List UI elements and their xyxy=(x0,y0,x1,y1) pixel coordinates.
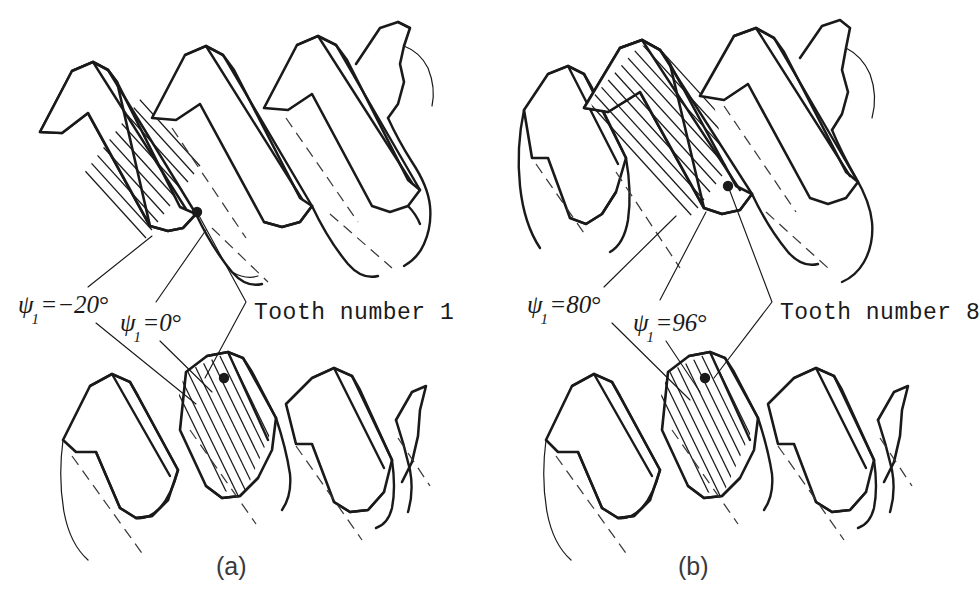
angle-value: −20 xyxy=(57,291,99,318)
equals-sign: = xyxy=(143,309,159,336)
panel-caption-a: (a) xyxy=(216,552,247,581)
panel-a-lower-gear xyxy=(61,344,430,560)
psi-subscript: 1 xyxy=(541,311,549,327)
angle-value: 80 xyxy=(566,291,591,318)
equals-sign: = xyxy=(550,291,566,318)
panel-b-upper-gear xyxy=(519,12,875,282)
tooth-number-label-a: Tooth number 1 xyxy=(254,300,454,326)
angle-value: 96 xyxy=(672,309,697,336)
contact-point-dot-b-lower xyxy=(700,373,710,383)
equals-sign: = xyxy=(41,291,57,318)
panel-b-lower-gear xyxy=(544,344,912,560)
angle-label-a-right: ψ1=0° xyxy=(120,310,182,340)
angle-label-a-left: ψ1=−20° xyxy=(18,292,109,322)
degree-sign: ° xyxy=(591,291,601,318)
angle-label-b-right: ψ1=96° xyxy=(633,310,707,340)
panel-a-upper-gear xyxy=(28,22,433,285)
degree-sign: ° xyxy=(99,291,109,318)
degree-sign: ° xyxy=(697,309,707,336)
angle-value: 0 xyxy=(159,309,172,336)
panel-caption-b: (b) xyxy=(678,552,709,581)
equals-sign: = xyxy=(656,309,672,336)
tooth-number-label-b: Tooth number 8 xyxy=(780,300,980,326)
contact-point-dot-a-lower xyxy=(219,373,229,383)
degree-sign: ° xyxy=(172,309,182,336)
psi-subscript: 1 xyxy=(32,311,40,327)
psi-subscript: 1 xyxy=(134,329,142,345)
angle-label-b-left: ψ1=80° xyxy=(527,292,601,322)
psi-subscript: 1 xyxy=(647,329,655,345)
